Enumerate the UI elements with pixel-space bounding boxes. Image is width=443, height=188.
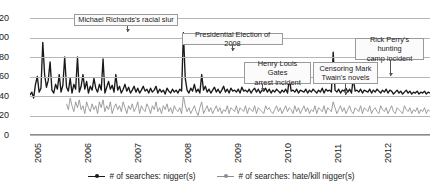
y-tick-label-80: 80 — [0, 53, 9, 62]
legend-item-1[interactable]: # of searches: nigger(s) — [88, 172, 195, 181]
x-tick-label-2010: 2010 — [284, 143, 293, 163]
annotation-label-5: Rick Perry's hunting camp incident — [355, 38, 424, 60]
gridline-40 — [30, 96, 430, 97]
annotation-leader-1 — [127, 26, 128, 32]
y-tick-label-0: 0 — [0, 131, 9, 140]
legend-item-2[interactable]: # of searches: hate/kill nigger(s) — [217, 172, 354, 181]
gridline-0 — [30, 135, 430, 136]
y-tick-label-20: 20 — [0, 111, 9, 120]
x-tick-label-2011: 2011 — [334, 144, 343, 163]
y-tick-label-100: 100 — [0, 33, 9, 42]
x-tick-label-2009: 2009 — [234, 143, 243, 163]
annotation-label-3: Henry Louis Gates arrest incident — [244, 62, 311, 84]
annotation-leader-2 — [232, 45, 233, 51]
x-tick-label-2012: 2012 — [384, 143, 393, 163]
annotation-label-4: Censoring Mark Twain's novels — [313, 62, 378, 84]
annotation-leader-4 — [345, 84, 346, 95]
chart-legend: # of searches: nigger(s)# of searches: h… — [0, 168, 443, 184]
x-tick-label-2005: 2005 — [34, 143, 43, 163]
annotation-leader-3 — [262, 84, 263, 91]
legend-swatch-icon-1 — [88, 173, 105, 180]
series-line-2 — [67, 96, 430, 116]
gridline-20 — [30, 116, 430, 117]
y-tick-label-120: 120 — [0, 14, 9, 23]
legend-swatch-icon-2 — [217, 173, 234, 180]
chart-figure: 0204060801001202005200620072008200920102… — [0, 0, 443, 188]
legend-label-2: # of searches: hate/kill nigger(s) — [238, 172, 354, 181]
y-tick-label-40: 40 — [0, 92, 9, 101]
legend-label-1: # of searches: nigger(s) — [109, 172, 195, 181]
x-tick-label-2006: 2006 — [84, 143, 93, 163]
annotation-leader-5 — [390, 60, 391, 76]
x-tick-label-2007: 2007 — [134, 143, 143, 163]
y-tick-label-60: 60 — [0, 72, 9, 81]
x-tick-label-2008: 2008 — [184, 143, 193, 163]
annotation-label-1: Michael Richards's racial slur — [74, 14, 178, 26]
annotation-label-2: Presidential Election of 2008 — [182, 33, 283, 45]
